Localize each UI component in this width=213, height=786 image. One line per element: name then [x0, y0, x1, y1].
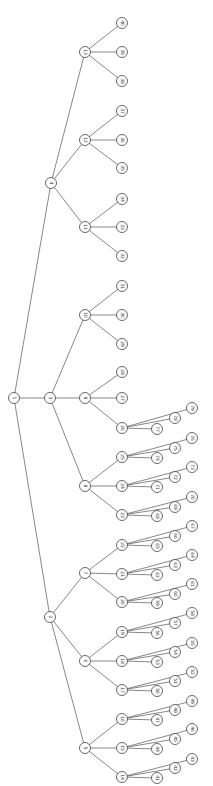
tree-edge [85, 457, 122, 486]
node-label: 28 [120, 369, 125, 375]
tree-node: 34 [117, 194, 128, 205]
node-label: 21 [120, 571, 125, 577]
tree-edge [122, 565, 175, 574]
node-label: 1 [12, 397, 17, 400]
node-label: 33 [120, 224, 125, 230]
tree-node: 2 [45, 612, 56, 623]
node-label: 46 [190, 726, 195, 732]
node-label: 2 [48, 616, 53, 619]
tree-node: 64 [187, 550, 198, 561]
tree-node: 3 [45, 393, 56, 404]
node-label: 64 [190, 552, 195, 558]
tree-node: 42 [170, 763, 181, 774]
tree-node: 40 [117, 18, 128, 29]
tree-node: 32 [117, 251, 128, 262]
tree-node: 52 [187, 667, 198, 678]
tree-edge [14, 398, 50, 617]
tree-node: 54 [170, 647, 181, 658]
node-label: 20 [120, 599, 125, 605]
tree-edge [122, 623, 175, 632]
node-label: 62 [155, 572, 160, 578]
tree-node: 19 [117, 627, 128, 638]
node-label: 72 [173, 474, 178, 480]
tree-edge [122, 652, 175, 661]
tree-node: 48 [170, 705, 181, 716]
node-label: 18 [120, 658, 125, 664]
node-label: 13 [83, 49, 88, 55]
node-label: 5 [83, 747, 88, 750]
tree-edge [85, 632, 122, 661]
node-label: 4 [49, 182, 54, 185]
tree-node: 24 [117, 481, 128, 492]
node-label: 14 [120, 774, 125, 780]
node-label: 73 [190, 464, 195, 470]
node-label: 36 [120, 137, 125, 143]
tree-edge [122, 418, 175, 428]
node-label: 35 [120, 165, 125, 171]
tree-edge [50, 617, 85, 661]
tree-node: 17 [117, 685, 128, 696]
tree-node: 61 [187, 579, 198, 590]
node-label: 22 [120, 542, 125, 548]
tree-edge [51, 183, 85, 227]
tree-edge [122, 710, 175, 719]
tree-node: 55 [187, 638, 198, 649]
tree-node: 7 [80, 568, 91, 579]
tree-edge [122, 536, 175, 545]
tree-node: 35 [117, 163, 128, 174]
node-label: 26 [120, 425, 125, 431]
tree-node: 23 [117, 510, 128, 521]
node-label: 68 [155, 513, 160, 519]
tree-edge [85, 545, 122, 573]
tree-node: 47 [152, 715, 163, 726]
tree-node: 13 [80, 47, 91, 58]
tree-node: 31 [117, 281, 128, 292]
tree-node: 27 [117, 393, 128, 404]
node-label: 16 [120, 716, 125, 722]
node-label: 19 [120, 629, 125, 635]
node-label: 12 [83, 137, 88, 143]
node-label: 66 [173, 533, 178, 539]
tree-node: 21 [117, 569, 128, 580]
node-label: 42 [173, 765, 178, 771]
tree-node: 59 [152, 598, 163, 609]
node-label: 55 [190, 640, 195, 646]
node-label: 76 [190, 435, 195, 441]
tree-node: 22 [117, 540, 128, 551]
tree-node: 46 [187, 724, 198, 735]
tree-edge [85, 227, 122, 256]
node-label: 25 [120, 454, 125, 460]
tree-edge [85, 372, 122, 398]
tree-edge [85, 199, 122, 227]
tree-node: 74 [152, 453, 163, 464]
tree-node: 5 [80, 743, 91, 754]
node-label: 34 [120, 196, 125, 202]
tree-node: 33 [117, 222, 128, 233]
node-label: 54 [173, 649, 178, 655]
tree-edge [85, 573, 122, 602]
tree-node: 58 [187, 608, 198, 619]
node-label: 27 [120, 395, 125, 401]
tree-node: 67 [187, 521, 198, 532]
node-label: 63 [173, 562, 178, 568]
tree-edge [85, 398, 122, 428]
node-label: 10 [83, 312, 88, 318]
tree-edge [85, 286, 122, 315]
tree-edge [85, 23, 122, 52]
tree-edge [85, 486, 122, 515]
tree-node: 53 [152, 657, 163, 668]
node-label: 23 [120, 512, 125, 518]
tree-node: 72 [170, 472, 181, 483]
node-label: 47 [155, 717, 160, 723]
tree-node: 68 [152, 511, 163, 522]
node-label: 7 [83, 572, 88, 575]
node-label: 9 [83, 397, 88, 400]
node-label: 60 [173, 591, 178, 597]
tree-edge [85, 748, 122, 777]
tree-node: 78 [170, 413, 181, 424]
tree-node: 10 [80, 310, 91, 321]
tree-edge [122, 448, 175, 457]
node-label: 58 [190, 610, 195, 616]
node-label: 32 [120, 253, 125, 259]
tree-node: 9 [80, 393, 91, 404]
